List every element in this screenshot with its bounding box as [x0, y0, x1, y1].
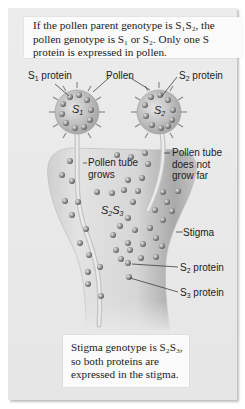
bottom-caption: Stigma genotype is S₂S₃, so both protein… — [63, 335, 189, 387]
bottom-caption-line-2: so both proteins are — [71, 355, 183, 369]
bottom-caption-line-3: expressed in the stigma. — [71, 368, 183, 382]
label-s2-protein-top: S2 protein — [179, 70, 223, 82]
label-s3-protein: S3 protein — [180, 287, 224, 299]
label-pollen-tube-not-far: Pollen tube does not grow far — [172, 147, 222, 182]
genotype-stigma: S2S3 — [101, 204, 124, 216]
genotype-pollen-s2: S2 — [154, 104, 165, 116]
label-stigma: Stigma — [183, 227, 214, 239]
label-s2-protein: S2 protein — [180, 262, 224, 274]
genotype-pollen-s1: S1 — [72, 103, 83, 115]
label-pollen-tube-grows: Pollen tube grows — [88, 157, 138, 180]
label-pollen: Pollen — [106, 70, 134, 82]
label-s1-protein: S1 protein — [28, 70, 72, 82]
bottom-caption-line-1: Stigma genotype is S₂S₃, — [71, 341, 183, 355]
leader-s1-protein — [55, 84, 69, 96]
